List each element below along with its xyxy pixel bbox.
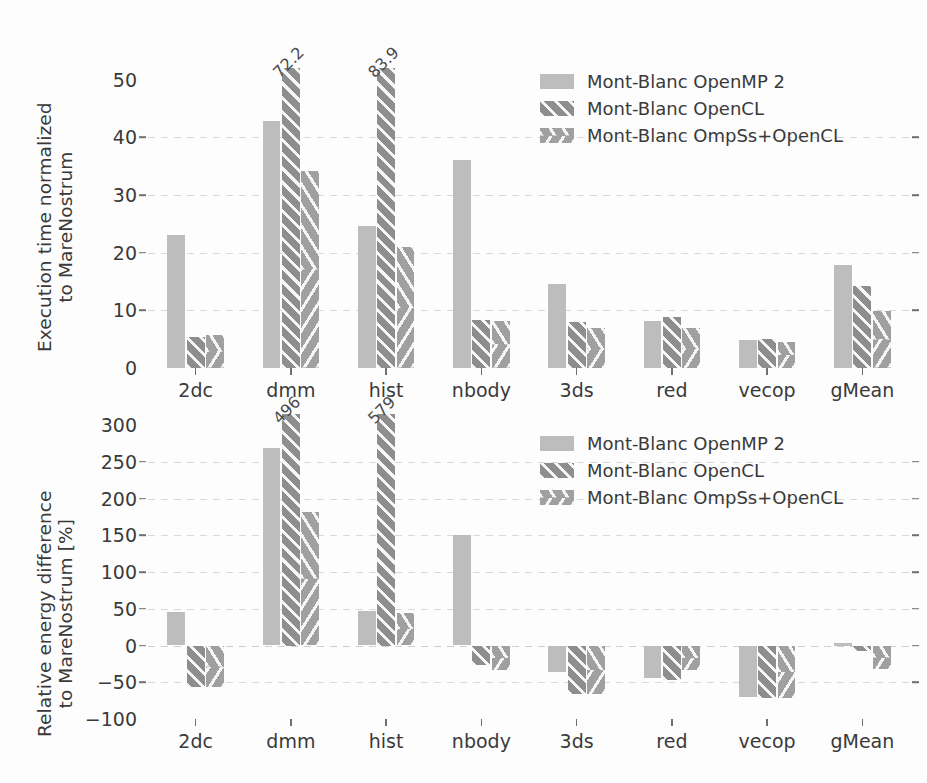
x-axis-tick-label: dmm (266, 730, 315, 752)
bar (453, 535, 471, 646)
x-axis-tick-label: gMean (830, 730, 894, 752)
bar (263, 121, 281, 368)
legend-item[interactable]: Mont-Blanc OmpSs+OpenCL (540, 484, 843, 511)
x-axis-tick-mark (195, 368, 197, 375)
bar (873, 311, 891, 368)
y-axis-label: Relative energy differenceto MareNostrum… (34, 490, 76, 737)
legend-item[interactable]: Mont-Blanc OpenMP 2 (540, 68, 843, 95)
y-axis-tick-mark (912, 608, 919, 610)
x-axis-tick-mark (576, 368, 578, 375)
y-axis-tick-mark (912, 645, 919, 647)
bar (301, 512, 319, 645)
y-axis-tick-label: −50 (97, 671, 137, 693)
bar (739, 646, 757, 697)
legend-swatch-icon (540, 436, 574, 451)
x-axis-tick-mark (481, 719, 483, 726)
bar (682, 328, 700, 368)
x-axis-tick-mark (385, 719, 387, 726)
bar (778, 342, 796, 368)
bar (301, 171, 319, 368)
x-axis-tick-mark (385, 368, 387, 375)
legend-label: Mont-Blanc OpenCL (587, 460, 764, 481)
bar (167, 235, 185, 368)
legend-swatch-icon (540, 128, 574, 143)
bar-group (358, 414, 415, 719)
y-axis-tick-mark (139, 252, 146, 254)
y-axis-tick-label: 50 (113, 69, 137, 91)
legend-item[interactable]: Mont-Blanc OmpSs+OpenCL (540, 122, 843, 149)
x-axis-tick-label: 2dc (178, 730, 213, 752)
legend-label: Mont-Blanc OpenMP 2 (587, 433, 785, 454)
y-axis-tick-label: 250 (101, 451, 137, 473)
bar (358, 611, 376, 646)
y-axis-tick-mark (912, 681, 919, 683)
bar-group (167, 68, 224, 368)
bar (568, 646, 586, 695)
y-axis-tick-mark (139, 136, 146, 138)
y-axis-tick-label: 300 (101, 414, 137, 436)
bar (472, 320, 490, 368)
bar-group (453, 414, 510, 719)
x-axis-tick-label: nbody (452, 730, 511, 752)
y-axis-tick-mark (912, 310, 919, 312)
x-axis-tick-mark (576, 719, 578, 726)
bar (644, 321, 662, 368)
chart-execution-time: Execution time normalizedto MareNostrum0… (0, 0, 927, 395)
y-axis-tick-mark (912, 252, 919, 254)
y-axis-tick-label: 50 (113, 598, 137, 620)
y-axis-tick-label: 150 (101, 524, 137, 546)
legend-label: Mont-Blanc OpenCL (587, 98, 764, 119)
bar-group (167, 414, 224, 719)
bar (453, 160, 471, 368)
x-axis-tick-mark (862, 719, 864, 726)
legend-swatch-icon (540, 101, 574, 116)
legend-item[interactable]: Mont-Blanc OpenCL (540, 457, 843, 484)
y-axis-tick-mark (139, 534, 146, 536)
bar (834, 265, 852, 368)
bar (187, 646, 205, 688)
bar (568, 322, 586, 368)
x-axis-tick-mark (290, 368, 292, 375)
x-axis-tick-label: 3ds (560, 730, 594, 752)
x-axis-tick-mark (671, 368, 673, 375)
y-axis-label-line: Execution time normalized (34, 102, 55, 352)
y-axis-tick-mark (139, 571, 146, 573)
y-axis-tick-mark (139, 681, 146, 683)
legend-label: Mont-Blanc OmpSs+OpenCL (587, 487, 843, 508)
x-axis-tick-label: red (656, 730, 687, 752)
bar (758, 646, 776, 699)
bar-group (453, 68, 510, 368)
bar (548, 284, 566, 368)
x-axis-tick-label: vecop (739, 730, 796, 752)
y-axis-tick-mark (139, 645, 146, 647)
x-axis-tick-mark (481, 368, 483, 375)
y-axis-tick-label: 0 (125, 635, 137, 657)
y-axis-tick-label: 30 (113, 184, 137, 206)
y-axis-tick-mark (912, 571, 919, 573)
y-axis-tick-label: 200 (101, 488, 137, 510)
legend-swatch-icon (540, 74, 574, 89)
bar (587, 328, 605, 368)
x-axis-tick-mark (671, 719, 673, 726)
bar (778, 646, 796, 699)
y-axis-tick-mark (912, 194, 919, 196)
bar-group (263, 414, 320, 719)
bar (492, 321, 510, 368)
bar (758, 339, 776, 368)
bar (853, 646, 871, 652)
x-axis-tick-mark (195, 719, 197, 726)
y-axis-tick-mark (139, 608, 146, 610)
y-axis-tick-label: 10 (113, 299, 137, 321)
y-axis-label-line: to MareNostrum (55, 102, 76, 352)
y-axis-tick-label: −100 (85, 708, 137, 730)
y-axis-tick-mark (912, 498, 919, 500)
y-axis-tick-mark (139, 498, 146, 500)
bar (206, 646, 224, 688)
legend-item[interactable]: Mont-Blanc OpenMP 2 (540, 430, 843, 457)
bar (397, 613, 415, 645)
y-axis-tick-label: 20 (113, 242, 137, 264)
bar (663, 317, 681, 368)
bar-group (263, 68, 320, 368)
y-axis-tick-mark (912, 136, 919, 138)
legend-item[interactable]: Mont-Blanc OpenCL (540, 95, 843, 122)
